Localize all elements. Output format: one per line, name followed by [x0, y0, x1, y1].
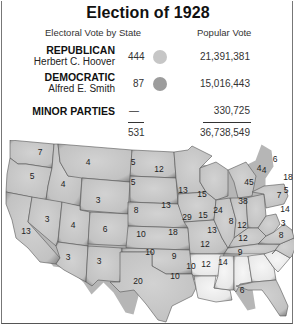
label-ia: 13: [161, 200, 171, 210]
candidate-name: Alfred E. Smith: [3, 83, 115, 95]
minor-popular-vote: 330,725: [170, 105, 250, 116]
republican-swatch-icon: [153, 50, 167, 64]
republican-electoral-votes: 444: [128, 51, 145, 62]
label-ks: 10: [136, 229, 146, 239]
total-electoral-votes: 531: [128, 127, 145, 138]
label-ok: 10: [145, 247, 155, 257]
label-co: 6: [103, 224, 108, 234]
republican-popular-vote: 21,391,381: [170, 51, 250, 62]
state-mt[interactable]: [58, 144, 132, 182]
state-wy[interactable]: [80, 178, 130, 214]
democratic-swatch-icon: [153, 77, 167, 91]
candidate-name: Herbert C. Hoover: [3, 56, 115, 68]
total-popular-vote: 36,738,549: [170, 127, 250, 138]
state-sd[interactable]: [130, 176, 178, 204]
label-il: 29: [182, 212, 192, 222]
label-az: 3: [66, 252, 71, 262]
label-fl: 6: [240, 285, 245, 295]
minor-electoral-votes: —: [129, 105, 139, 116]
label-nh: 4: [262, 165, 267, 175]
electoral-vote-header: Electoral Vote by State: [45, 27, 141, 38]
label-or: 5: [30, 171, 35, 181]
popular-total-rule: [203, 122, 251, 123]
label-nj: 14: [280, 204, 290, 214]
popular-vote-header: Popular Vote: [197, 27, 251, 38]
label-mo: 18: [168, 227, 178, 237]
label-ri: 5: [284, 185, 289, 195]
label-nv: 3: [45, 214, 50, 224]
label-ma: 18: [283, 172, 293, 182]
label-nc: 12: [238, 233, 248, 243]
map-title: Election of 1928: [0, 4, 296, 22]
label-wi: 13: [178, 185, 188, 195]
legend-republican: REPUBLICAN Herbert C. Hoover: [3, 44, 115, 68]
label-in: 15: [198, 210, 208, 220]
label-de: 3: [281, 218, 286, 228]
label-tx: 20: [133, 276, 143, 286]
label-wy: 3: [96, 195, 101, 205]
label-ms: 10: [186, 261, 196, 271]
democratic-popular-vote: 15,016,443: [170, 78, 250, 89]
legend-democratic: DEMOCRATIC Alfred E. Smith: [3, 71, 115, 95]
label-ut: 4: [71, 220, 76, 230]
label-pa: 38: [238, 196, 248, 206]
party-name: DEMOCRATIC: [3, 71, 115, 83]
label-ar: 9: [172, 251, 177, 261]
state-nm[interactable]: [86, 246, 122, 286]
label-me: 6: [273, 154, 278, 164]
party-name: REPUBLICAN: [3, 44, 115, 56]
label-ky: 13: [207, 225, 217, 235]
label-sd: 5: [131, 177, 136, 187]
label-nd: 5: [131, 157, 136, 167]
label-ga: 14: [218, 257, 228, 267]
electoral-total-rule: [128, 122, 144, 123]
label-ca: 13: [21, 226, 31, 236]
label-al: 12: [201, 259, 211, 269]
label-md: 8: [279, 230, 284, 240]
democratic-electoral-votes: 87: [133, 78, 144, 89]
label-ne: 8: [134, 205, 139, 215]
label-wv: 8: [229, 216, 234, 226]
label-mn: 12: [154, 164, 164, 174]
label-va: 12: [237, 220, 247, 230]
label-nm: 3: [97, 256, 102, 266]
state-az[interactable]: [56, 242, 88, 282]
label-oh: 24: [213, 205, 223, 215]
legend-minor-parties: MINOR PARTIES: [3, 105, 115, 117]
label-wa: 7: [38, 147, 43, 157]
label-ct: 7: [277, 190, 282, 200]
label-la: 10: [170, 271, 180, 281]
label-mi: 15: [197, 189, 207, 199]
label-id: 4: [61, 179, 66, 189]
label-tn: 12: [200, 239, 210, 249]
label-ny: 45: [244, 177, 254, 187]
us-electoral-map: 7 5 13 4 3 4 3 4 3 6 3 5 5 8 10 10 20 12…: [2, 140, 294, 326]
party-name: MINOR PARTIES: [3, 105, 115, 117]
label-sc: 9: [238, 247, 243, 257]
label-mt: 4: [86, 157, 91, 167]
state-nd[interactable]: [130, 150, 176, 178]
state-co[interactable]: [88, 212, 130, 246]
